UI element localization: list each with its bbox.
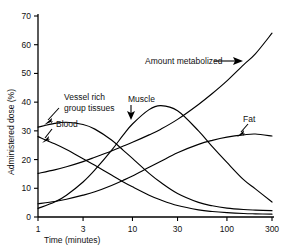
x-tick-label: 30 (173, 224, 183, 234)
vessel-rich-label-line1: Vessel rich (64, 92, 105, 102)
x-tick-label: 300 (265, 224, 279, 234)
chart-container: 010203040506070 131030100300 Vessel rich (0, 0, 284, 251)
semilog-line-chart: 010203040506070 131030100300 Vessel rich (0, 0, 284, 251)
vessel-rich-label-line2: group tissues (64, 103, 115, 113)
blood-label: Blood (56, 119, 78, 129)
y-tick-label: 60 (22, 40, 32, 50)
y-tick-label: 70 (22, 11, 32, 21)
y-tick-label: 50 (22, 68, 32, 78)
x-tick-label: 10 (128, 224, 138, 234)
y-tick-label: 20 (22, 155, 32, 165)
y-tick-label: 40 (22, 97, 32, 107)
muscle-label: Muscle (128, 94, 155, 104)
fat-label: Fat (243, 114, 256, 124)
y-tick-label: 30 (22, 126, 32, 136)
y-tick-label: 10 (22, 183, 32, 193)
x-tick-label: 3 (81, 224, 86, 234)
y-axis-title: Administered dose (%) (6, 89, 16, 175)
x-axis-title: Time (minutes) (44, 235, 101, 245)
x-tick-label: 1 (36, 224, 41, 234)
amount-metabolized-label: Amount metabolized (145, 56, 223, 66)
y-tick-label: 0 (26, 212, 31, 222)
x-tick-label: 100 (220, 224, 234, 234)
